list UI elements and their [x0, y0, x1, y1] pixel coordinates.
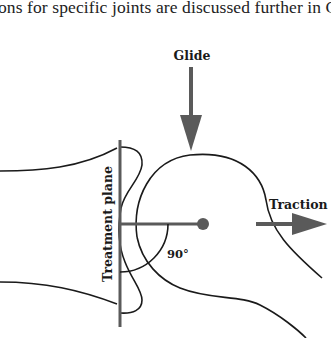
- joint-mechanics-diagram: Glide Traction 90° Treatment plane: [0, 0, 331, 338]
- convex-bone-outline: [136, 154, 322, 338]
- center-of-rotation-dot: [197, 218, 209, 230]
- right-angle-arc: [120, 224, 168, 272]
- glide-arrow-icon: [180, 67, 202, 151]
- angle-label: 90°: [167, 247, 189, 261]
- traction-label: Traction: [269, 197, 328, 212]
- traction-arrow-icon: [256, 213, 327, 235]
- glide-label: Glide: [174, 48, 211, 63]
- treatment-plane-label: Treatment plane: [100, 166, 115, 282]
